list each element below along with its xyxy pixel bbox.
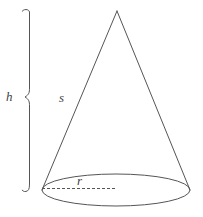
height-label: h [6,90,13,103]
cone-right-slant-edge [117,11,190,190]
slant-height-label: s [59,91,64,104]
cone-figure-svg [0,0,203,217]
cone-left-slant-edge [42,11,117,190]
radius-label: r [77,174,82,187]
cone-base-ellipse [42,174,190,206]
height-brace [22,10,29,192]
cone-diagram: h s r [0,0,203,217]
